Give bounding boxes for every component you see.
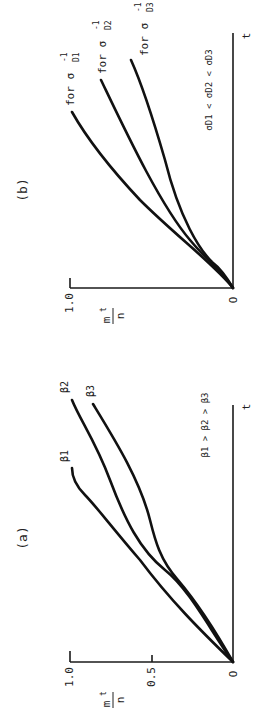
svg-text:-1: -1 — [134, 2, 143, 12]
panel-a-title: (a) — [15, 526, 30, 549]
svg-text:m: m — [100, 316, 113, 323]
svg-text:D3: D3 — [146, 2, 155, 12]
svg-text:D1: D1 — [72, 52, 81, 62]
svg-text:for σ: for σ — [96, 41, 109, 74]
panel-b-title: (b) — [15, 178, 30, 201]
panel-b-y-label: m t n — [99, 307, 127, 324]
panel-a-y-label: m t n — [99, 691, 127, 708]
panel-b-tick-label-zero: O — [227, 297, 240, 304]
curve-beta-1 — [72, 468, 233, 662]
svg-text:for σ: for σ — [64, 73, 77, 106]
panel-b-t-label: t — [240, 33, 253, 40]
svg-text:n: n — [114, 697, 127, 704]
panel-a-tick-label-max: 1.0 — [63, 667, 76, 687]
legend-beta-2: β2 — [59, 381, 70, 393]
legend-beta-3: β3 — [85, 385, 96, 397]
curve-beta-3 — [93, 404, 233, 662]
panel-b-annotation: σD1 < σD2 < σD3 — [204, 49, 214, 130]
legend-sigma-d1: for σ -1 D1 — [60, 52, 81, 106]
panel-a: (a) 1.0 0.5 O t m t n β1 β2 β3 β1 > β2 >… — [15, 381, 253, 708]
legend-beta-1: β1 — [59, 450, 70, 462]
svg-text:n: n — [114, 313, 127, 320]
panel-b-tick-label-max: 1.0 — [63, 293, 76, 313]
svg-text:-1: -1 — [60, 52, 69, 62]
panel-a-annotation: β1 > β2 > β3 — [200, 392, 210, 457]
panel-a-tick-label-mid: 0.5 — [145, 667, 158, 687]
svg-text:-1: -1 — [92, 20, 101, 30]
svg-text:t: t — [99, 307, 108, 312]
panel-a-tick-label-zero: O — [227, 671, 240, 678]
svg-text:for σ: for σ — [138, 23, 151, 56]
svg-text:D2: D2 — [104, 20, 113, 30]
legend-sigma-d2: for σ -1 D2 — [92, 20, 113, 74]
figure: (b) 1.0 O t m t n for σ -1 D1 for σ -1 D… — [0, 0, 262, 713]
panel-b: (b) 1.0 O t m t n for σ -1 D1 for σ -1 D… — [15, 2, 253, 324]
svg-text:m: m — [100, 700, 113, 707]
legend-sigma-d3: for σ -1 D3 — [134, 2, 155, 56]
panel-a-t-label: t — [240, 404, 253, 411]
svg-text:t: t — [99, 691, 108, 696]
